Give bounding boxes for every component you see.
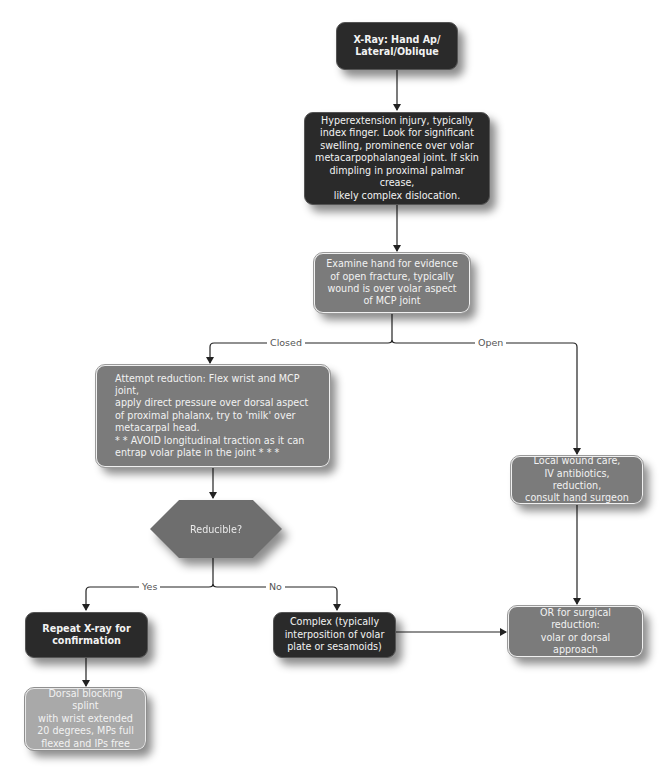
node-complex-text: Complex (typically interposition of vola…: [285, 616, 385, 653]
edge-label-yes: Yes: [139, 581, 160, 593]
node-presentation-text: Hyperextension injury, typically index f…: [313, 115, 481, 202]
node-examine-text: Examine hand for evidence of open fractu…: [326, 258, 458, 308]
hexagon-shape: Reducible?: [150, 500, 282, 558]
edge-label-open: Open: [475, 337, 506, 349]
node-presentation: Hyperextension injury, typically index f…: [304, 112, 490, 205]
node-attempt-reduction-text: Attempt reduction: Flex wrist and MCP jo…: [115, 373, 321, 460]
edge-open: [392, 340, 577, 454]
node-complex: Complex (typically interposition of vola…: [273, 612, 396, 658]
node-xray-text: X-Ray: Hand Ap/ Lateral/Oblique: [354, 34, 441, 59]
node-local-wound-care: Local wound care, IV antibiotics, reduct…: [511, 456, 643, 504]
node-or-surgical-text: OR for surgical reduction: volar or dors…: [517, 607, 634, 657]
edge-label-closed: Closed: [267, 337, 305, 349]
node-reducible-decision: Reducible?: [150, 500, 282, 558]
edge-label-no: No: [266, 581, 285, 593]
node-repeat-xray: Repeat X-ray for confirmation: [25, 612, 148, 658]
node-or-surgical: OR for surgical reduction: volar or dors…: [508, 606, 643, 657]
node-splint: Dorsal blocking splint with wrist extend…: [25, 688, 146, 750]
node-repeat-xray-text: Repeat X-ray for confirmation: [42, 623, 130, 648]
node-local-wound-care-text: Local wound care, IV antibiotics, reduct…: [520, 455, 634, 505]
node-examine: Examine hand for evidence of open fractu…: [314, 253, 470, 313]
node-attempt-reduction: Attempt reduction: Flex wrist and MCP jo…: [96, 365, 330, 467]
node-reducible-text: Reducible?: [190, 524, 242, 535]
node-splint-text: Dorsal blocking splint with wrist extend…: [34, 688, 137, 750]
node-xray: X-Ray: Hand Ap/ Lateral/Oblique: [336, 22, 458, 70]
